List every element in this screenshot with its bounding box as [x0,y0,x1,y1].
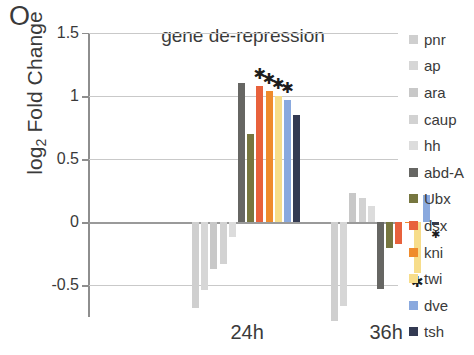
legend-item-ubx[interactable]: Ubx [409,186,473,213]
legend-item-ara[interactable]: ara [409,79,473,106]
bar [275,96,282,222]
legend-swatch-icon [409,35,418,44]
gridline [88,285,398,286]
bar [220,222,227,264]
legend-swatch-icon [409,274,418,283]
legend: pnraparacauphhabd-AUbxdsxknitwidvetsh [409,26,473,345]
legend-swatch-icon [409,194,418,203]
legend-item-hh[interactable]: hh [409,132,473,159]
y-axis-tick-label: -0.5 [51,276,79,294]
bar [331,222,338,320]
bar [395,222,402,243]
y-axis-tick-label: 1 [70,87,79,105]
legend-swatch-icon [409,88,418,97]
legend-label: dsx [424,218,447,233]
legend-label: hh [424,138,441,153]
bar [247,134,254,222]
legend-label: abd-A [424,165,464,180]
legend-swatch-icon [409,141,418,150]
legend-label: twi [424,271,442,286]
legend-label: dve [424,298,448,313]
legend-label: pnr [424,32,446,47]
y-axis-tick [82,222,89,223]
bar [293,115,300,222]
y-axis-tick [82,33,89,34]
y-axis-line [88,33,90,317]
plot-area: gene de-repression 1.510.50-0.5 ✱✱✱✱✱✱ 2… [88,33,398,317]
y-axis-title-subscript: 2 [33,139,49,147]
legend-item-twi[interactable]: twi [409,265,473,292]
legend-swatch-icon [409,168,418,177]
y-axis-tick [82,159,89,160]
legend-item-caup[interactable]: caup [409,106,473,133]
bar [201,222,208,290]
bar [349,193,356,222]
bar [229,222,236,237]
legend-item-ap[interactable]: ap [409,53,473,80]
legend-item-tsh[interactable]: tsh [409,319,473,346]
legend-item-pnr[interactable]: pnr [409,26,473,53]
figure-panel: O log2 Fold Change gene de-repression 1.… [0,0,474,355]
bar [192,222,199,308]
bar [238,83,245,222]
bar [266,91,273,222]
bar [340,222,347,305]
legend-label: ara [424,85,446,100]
bar [359,198,366,222]
x-axis-tick-label: 36h [370,321,403,344]
y-axis-tick-label: 1.5 [57,24,79,42]
bar [386,222,393,247]
legend-label: Ubx [424,191,451,206]
y-axis-tick [82,96,89,97]
y-axis-tick-label: 0 [70,213,79,231]
legend-label: caup [424,112,457,127]
y-axis-tick [82,285,89,286]
gridline [88,33,398,34]
legend-label: kni [424,245,443,260]
bar [377,222,384,289]
bar [368,206,375,222]
legend-label: tsh [424,324,444,339]
y-axis-title: log2 Fold Change [23,0,49,203]
legend-swatch-icon [409,115,418,124]
bar [284,100,291,222]
legend-item-dsx[interactable]: dsx [409,212,473,239]
legend-item-kni[interactable]: kni [409,239,473,266]
legend-swatch-icon [409,221,418,230]
legend-swatch-icon [409,248,418,257]
legend-swatch-icon [409,61,418,70]
y-axis-title-main: Fold Change [23,11,46,132]
y-axis-tick-label: 0.5 [57,150,79,168]
gridline [88,222,398,223]
bar [210,222,217,269]
legend-swatch-icon [409,327,418,336]
bar [256,86,263,222]
legend-label: ap [424,58,441,73]
y-axis-title-prefix: log [23,146,46,174]
chart-title: gene de-repression [88,25,398,47]
legend-swatch-icon [409,301,418,310]
legend-item-abd-a[interactable]: abd-A [409,159,473,186]
significance-asterisk: ✱ [281,81,294,96]
legend-item-dve[interactable]: dve [409,292,473,319]
x-axis-tick-label: 24h [231,321,264,344]
